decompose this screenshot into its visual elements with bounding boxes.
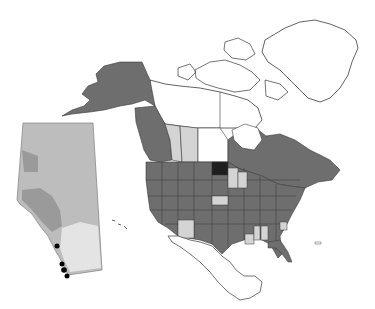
alabama <box>261 226 268 240</box>
alberta-inset <box>17 123 102 279</box>
louisiana <box>245 234 254 244</box>
manitoba <box>198 128 228 162</box>
occurrence-point <box>61 267 67 273</box>
saskatchewan <box>180 126 198 162</box>
bermuda <box>315 242 321 244</box>
hawaii <box>112 220 127 229</box>
florida <box>268 240 292 262</box>
wisconsin <box>238 172 247 188</box>
north-dakota <box>212 162 228 175</box>
occurrence-point <box>65 274 70 279</box>
occurrence-point <box>55 244 60 249</box>
north-america-map <box>0 0 375 309</box>
occurrence-point <box>60 262 65 267</box>
nebraska <box>212 196 228 205</box>
arizona <box>178 220 194 238</box>
mississippi <box>254 226 260 240</box>
south-carolina <box>280 222 287 230</box>
minnesota <box>228 168 238 188</box>
